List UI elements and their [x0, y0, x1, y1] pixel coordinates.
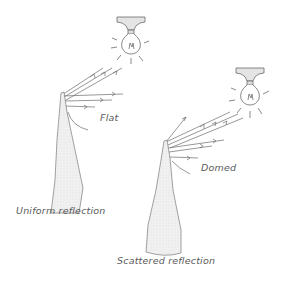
reflection-diagram: Flat Uniform reflection Domed Scattered …: [0, 0, 291, 283]
light-bulb-icon: [229, 68, 269, 118]
caption-uniform-reflection: Uniform reflection: [16, 205, 106, 216]
tip-label-domed: Domed: [201, 162, 236, 173]
caption-scattered-reflection: Scattered reflection: [117, 255, 215, 266]
pointer-curve: [68, 112, 88, 130]
tip-label-flat: Flat: [100, 112, 118, 123]
reflected-rays: [62, 92, 123, 109]
light-bulb-icon: [111, 17, 149, 64]
pointer-curve: [172, 161, 190, 174]
hair-shaft-flat: [51, 92, 83, 213]
